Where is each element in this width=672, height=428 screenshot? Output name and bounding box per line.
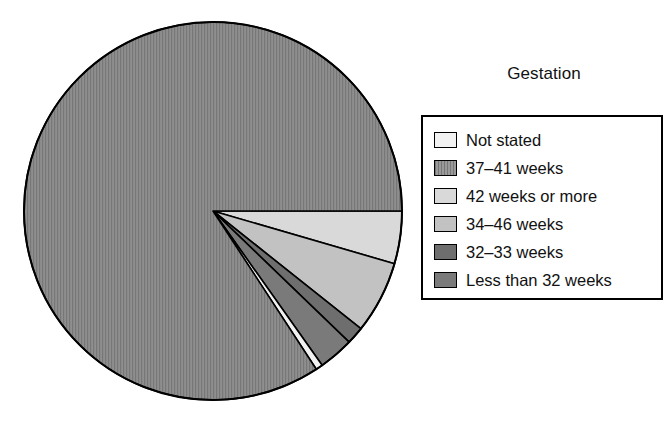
- legend-item-weeks-37-41[interactable]: 37–41 weeks: [423, 154, 661, 182]
- legend-item-label: 42 weeks or more: [466, 188, 597, 205]
- legend-item-not-stated[interactable]: Not stated: [423, 126, 661, 154]
- legend-swatch-icon: [434, 244, 457, 260]
- legend-item-label: 32–33 weeks: [466, 244, 563, 261]
- legend-title: Gestation: [420, 64, 668, 84]
- legend-swatch-icon: [434, 188, 457, 204]
- legend-swatch-icon: [434, 160, 457, 176]
- legend-item-weeks-42-or-more[interactable]: 42 weeks or more: [423, 182, 661, 210]
- legend-item-weeks-32-33[interactable]: 32–33 weeks: [423, 238, 661, 266]
- legend-box: Not stated37–41 weeks42 weeks or more34–…: [421, 115, 663, 300]
- legend-item-weeks-34-46[interactable]: 34–46 weeks: [423, 210, 661, 238]
- legend-item-label: 34–46 weeks: [466, 216, 563, 233]
- legend-item-label: 37–41 weeks: [466, 160, 563, 177]
- legend-item-label: Less than 32 weeks: [466, 272, 612, 289]
- legend-swatch-icon: [434, 132, 457, 148]
- legend-item-less-than-32-weeks[interactable]: Less than 32 weeks: [423, 266, 661, 294]
- pie-slices-group: 42 weeks or more34–46 weeks32–33 weeksLe…: [24, 22, 402, 400]
- pie-chart-svg: 42 weeks or more34–46 weeks32–33 weeksLe…: [0, 0, 430, 428]
- legend-swatch-icon: [434, 216, 457, 232]
- pie-chart: 42 weeks or more34–46 weeks32–33 weeksLe…: [0, 0, 430, 428]
- chart-canvas: 42 weeks or more34–46 weeks32–33 weeksLe…: [0, 0, 672, 428]
- legend-swatch-icon: [434, 272, 457, 288]
- legend-item-label: Not stated: [466, 132, 541, 149]
